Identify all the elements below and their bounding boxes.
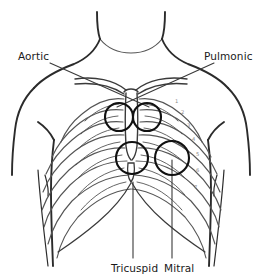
rib-number-2: 2 — [181, 109, 184, 115]
clavicles — [75, 78, 187, 94]
left-arm-inner-edge — [51, 140, 54, 266]
rib-number-5: 5 — [196, 151, 199, 157]
left-costal-margin — [58, 183, 131, 252]
neck-right-edge — [162, 12, 165, 39]
right-shoulder-slope — [162, 39, 228, 88]
xiphoid-process — [128, 163, 135, 182]
rib-number-1: 1 — [175, 98, 178, 104]
left-rib-5 — [42, 148, 125, 210]
leader-line-pulmonic — [117, 63, 214, 107]
rib-cage — [42, 93, 221, 258]
left-arm-outer-edge — [12, 88, 34, 175]
left-cartilage-7 — [81, 182, 126, 210]
leader-line-aortic — [50, 63, 149, 107]
label-aortic: Aortic — [18, 51, 49, 62]
rib-number-4: 4 — [192, 136, 196, 142]
neck-left-edge — [97, 12, 100, 39]
right-cartilage-7 — [137, 182, 182, 210]
rib-number-3: 3 — [187, 122, 190, 128]
right-rib-5 — [138, 148, 221, 210]
throat-curve — [100, 39, 162, 53]
rib-number-7: 7 — [194, 184, 197, 190]
right-rib-7 — [134, 175, 215, 244]
sternal-notch — [124, 89, 138, 92]
right-costal-margin — [132, 183, 205, 252]
right-arm-crease — [214, 175, 217, 196]
left-cartilage-1 — [85, 104, 119, 121]
rib-number-6: 6 — [196, 167, 199, 173]
chest-auscultation-diagram: 1 2 3 4 5 6 7 — [0, 0, 263, 278]
right-clavicle-lower — [138, 83, 187, 94]
label-tricuspid: Tricuspid — [111, 263, 158, 274]
right-arm-outer-edge — [228, 88, 250, 175]
left-axilla-fold — [38, 122, 54, 140]
auscultation-markers — [105, 103, 189, 175]
right-axilla-fold — [208, 122, 224, 140]
diagram-page: 1 2 3 4 5 6 7 Aortic Pulmonic — [0, 0, 263, 278]
label-pulmonic: Pulmonic — [204, 51, 253, 62]
left-rib-7 — [48, 175, 129, 244]
marker-circle-tricuspid[interactable] — [116, 142, 148, 174]
label-mitral: Mitral — [164, 263, 194, 274]
